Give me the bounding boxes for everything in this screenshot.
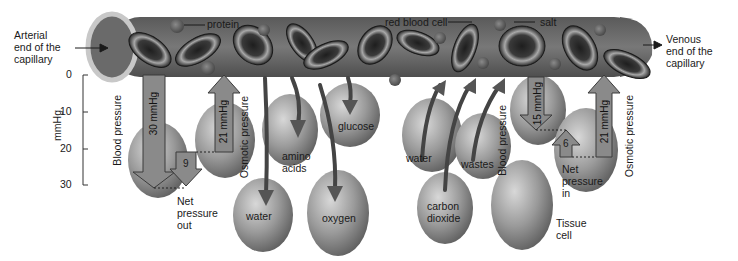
net-pressure-in-label: Net pressure in <box>562 163 603 199</box>
venous-blood-pressure-value: 15 mmHg <box>532 82 543 125</box>
wastes-label: wastes <box>461 158 494 170</box>
net-out-line2: pressure <box>177 207 218 219</box>
net-out-line3: out <box>177 219 218 231</box>
venous-end-label: Venous end of the capillary <box>666 33 713 69</box>
arterial-net-value: 9 <box>183 158 189 170</box>
axis-tick-20: 20 <box>60 142 72 154</box>
mmhg-axis <box>83 75 88 185</box>
amino-acids-label: amino acids <box>282 150 311 174</box>
net-in-line2: pressure <box>562 175 603 187</box>
net-out-line1: Net <box>177 195 218 207</box>
glucose-label: glucose <box>338 120 374 132</box>
arterial-blood-pressure-label: Blood pressure <box>112 95 136 166</box>
water-out-label: water <box>246 210 272 222</box>
venous-line3: capillary <box>666 57 713 69</box>
venous-osmotic-pressure-value: 21 mmHg <box>599 100 610 143</box>
water-in-label: water <box>406 152 432 164</box>
salt-label: salt <box>540 16 556 28</box>
arterial-end-label: Arterial end of the capillary <box>14 29 61 65</box>
oxygen-label: oxygen <box>322 212 356 224</box>
venous-blood-pressure-label: Blood pressure <box>497 105 521 176</box>
net-pressure-out-label: Net pressure out <box>177 195 218 231</box>
venous-osmotic-pressure-label: Osmotic pressure <box>624 95 648 177</box>
co2-line1: carbon <box>427 200 460 212</box>
arterial-line1: Arterial <box>14 29 61 41</box>
axis-tick-0: 0 <box>66 68 72 80</box>
tissue-line2: cell <box>556 229 587 241</box>
protein-label: protein <box>207 18 239 30</box>
arterial-osmotic-pressure-label: Osmotic pressure <box>239 96 263 178</box>
net-in-line3: in <box>562 187 603 199</box>
arterial-line3: capillary <box>14 53 61 65</box>
net-in-line1: Net <box>562 163 603 175</box>
amino-line2: acids <box>282 162 311 174</box>
amino-line1: amino <box>282 150 311 162</box>
venous-line1: Venous <box>666 33 713 45</box>
arterial-osmotic-pressure-value: 21 mmHg <box>218 100 229 143</box>
tissue-line1: Tissue <box>556 217 587 229</box>
venous-net-value: 6 <box>563 138 569 150</box>
co2-line2: dioxide <box>427 212 460 224</box>
arterial-line2: end of the <box>14 41 61 53</box>
venous-line2: end of the <box>666 45 713 57</box>
axis-tick-30: 30 <box>60 178 72 190</box>
carbon-dioxide-label: carbon dioxide <box>427 200 460 224</box>
red-blood-cell-label: red blood cell <box>385 16 447 28</box>
axis-label: mmHg <box>52 110 63 141</box>
tissue-cell-label: Tissue cell <box>556 217 587 241</box>
arterial-blood-pressure-value: 30 mmHg <box>148 92 159 135</box>
